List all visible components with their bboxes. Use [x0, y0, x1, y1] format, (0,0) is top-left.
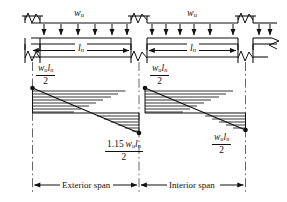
shear-label-exterior-left-numerator: wuln — [36, 64, 55, 76]
shear-line-exterior — [33, 88, 140, 133]
shear-node-exterior-right — [137, 131, 142, 136]
shear-label-interior-right: wuln 2 — [212, 133, 231, 155]
shear-node-exterior-left — [30, 86, 35, 91]
clear-span-label-exterior: ln — [75, 43, 87, 54]
beam-interior-span — [147, 23, 238, 38]
dimension-band-right-stub — [253, 44, 277, 57]
shear-label-exterior-right-denominator: 2 — [105, 152, 143, 163]
clear-span-label-interior: ln — [187, 43, 199, 54]
shear-label-exterior-right: 1.15 wuln 2 — [105, 140, 143, 162]
diagram-canvas — [0, 0, 287, 202]
beam-right-stub — [253, 23, 277, 38]
shear-label-exterior-left: wuln 2 — [36, 64, 55, 86]
shear-label-interior-right-numerator: wuln — [212, 133, 231, 145]
shear-force-diagram-figure: wu wu ln ln wuln 2 wuln 2 1.15 wuln 2 wu… — [0, 0, 287, 202]
shear-node-interior-right — [243, 128, 248, 133]
hatching-interior-negative — [205, 116, 246, 128]
span-label-exterior: Exterior span — [60, 180, 112, 190]
load-label-interior: wu — [187, 8, 197, 19]
shear-label-exterior-right-numerator: 1.15 wuln — [105, 140, 143, 152]
shear-label-exterior-left-denominator: 2 — [36, 76, 55, 87]
shear-label-interior-left-denominator: 2 — [150, 76, 169, 87]
break-symbol-left-bottom — [25, 51, 40, 61]
shear-diagram-exterior — [30, 86, 141, 136]
hatching-interior-positive — [145, 91, 233, 112]
load-arrows-exterior — [44, 24, 127, 35]
break-symbol-middle-top — [131, 13, 147, 23]
load-arrows-right-stub — [259, 24, 270, 35]
beam-and-columns — [22, 13, 279, 63]
break-symbol-left-top — [25, 13, 40, 23]
shear-diagram-interior — [143, 86, 248, 133]
beam-exterior-span — [31, 23, 131, 38]
break-symbol-right-top — [238, 13, 253, 23]
shear-label-interior-left-numerator: wuln — [150, 64, 169, 76]
shear-label-interior-right-denominator: 2 — [212, 145, 231, 156]
load-label-exterior: wu — [74, 8, 84, 19]
hatching-exterior-positive — [33, 91, 126, 112]
break-symbol-right-bottom — [238, 51, 253, 61]
span-label-interior: Interior span — [167, 180, 217, 190]
shear-label-interior-left: wuln 2 — [150, 64, 169, 86]
break-symbol-middle-bottom — [131, 51, 147, 61]
shear-node-interior-left — [143, 86, 148, 91]
load-arrows-interior — [152, 24, 233, 35]
